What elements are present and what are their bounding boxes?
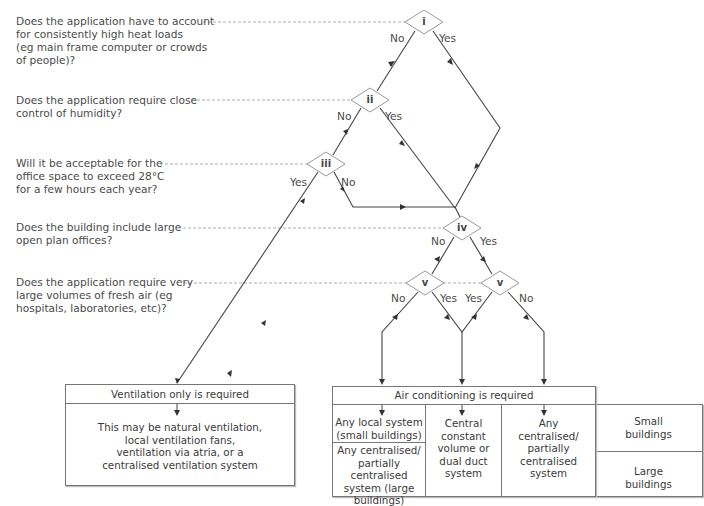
- question-iv: Does the building include large open pla…: [16, 221, 181, 247]
- air-conditioning-header: Air conditioning is required: [333, 387, 595, 405]
- ventilation-body-line: This may be natural ventilation,: [66, 421, 294, 434]
- ac-text-line: Central: [426, 417, 501, 430]
- branch-v-left-no: No: [391, 292, 405, 304]
- branch-v-right-yes: Yes: [465, 292, 482, 304]
- ventilation-box: Ventilation only is required This may be…: [65, 384, 295, 486]
- question-line: Does the application have to account: [16, 15, 214, 28]
- ac-local-system-small: Any local system (small buildings): [333, 416, 425, 441]
- question-line: office space to exceed 28°C: [16, 170, 164, 183]
- ac-text-line: system: [426, 467, 501, 480]
- ac-text-line: constant: [426, 430, 501, 443]
- air-conditioning-box: Air conditioning is required Any local s…: [332, 386, 596, 497]
- branch-v-right-no: No: [519, 292, 533, 304]
- ac-text-line: buildings): [331, 494, 427, 506]
- ac-text-line: partially: [502, 442, 595, 455]
- question-line: Does the application require very: [16, 276, 193, 289]
- question-line: hospitals, laboratories, etc)?: [16, 302, 193, 315]
- branch-i-no: No: [390, 32, 404, 44]
- question-line: open plan offices?: [16, 234, 181, 247]
- ac-text-line: Any local system: [333, 416, 425, 429]
- branch-iii-no: No: [341, 176, 355, 188]
- ac-text-line: Any centralised/: [331, 444, 427, 457]
- branch-i-yes: Yes: [439, 32, 456, 44]
- decision-iv-label: iv: [447, 222, 477, 234]
- ac-text-line: system: [502, 467, 595, 480]
- question-line: for a few hours each year?: [16, 183, 164, 196]
- legend-small-buildings: Small buildings: [595, 405, 702, 452]
- legend-line: buildings: [595, 428, 702, 441]
- branch-iv-yes: Yes: [480, 235, 497, 247]
- ac-central-constant-volume: Central constant volume or dual duct sys…: [426, 417, 501, 480]
- building-size-legend: Small buildings Large buildings: [594, 404, 703, 497]
- question-line: (eg main frame computer or crowds: [16, 41, 214, 54]
- decision-ii-label: ii: [355, 94, 385, 106]
- question-ii: Does the application require close contr…: [16, 94, 197, 120]
- question-iii: Will it be acceptable for the office spa…: [16, 157, 164, 196]
- question-line: for consistently high heat loads: [16, 28, 214, 41]
- question-line: large volumes of fresh air (eg: [16, 289, 193, 302]
- decision-v-right-label: v: [485, 277, 515, 289]
- ac-text-line: centralised: [502, 455, 595, 468]
- ac-centralised-large: Any centralised/ partially centralised s…: [331, 444, 427, 506]
- legend-line: buildings: [595, 478, 702, 491]
- branch-v-left-yes: Yes: [440, 292, 457, 304]
- question-line: Does the building include large: [16, 221, 181, 234]
- branch-ii-no: No: [337, 110, 351, 122]
- decision-iii-label: iii: [311, 158, 341, 170]
- question-line: Will it be acceptable for the: [16, 157, 164, 170]
- question-v: Does the application require very large …: [16, 276, 193, 315]
- legend-small-text: Small buildings: [595, 415, 702, 440]
- question-line: of people)?: [16, 54, 214, 67]
- legend-line: Small: [595, 415, 702, 428]
- row-divider: [333, 442, 425, 443]
- decision-v-left-label: v: [410, 277, 440, 289]
- ventilation-body: This may be natural ventilation, local v…: [66, 421, 294, 471]
- branch-ii-yes: Yes: [385, 110, 402, 122]
- ac-any-centralised: Any centralised/ partially centralised s…: [502, 417, 595, 480]
- ventilation-body-line: centralised ventilation system: [66, 459, 294, 472]
- ac-text-line: partially centralised: [331, 457, 427, 482]
- ac-text-line: (small buildings): [333, 429, 425, 442]
- decision-i-label: i: [409, 16, 439, 28]
- ventilation-header: Ventilation only is required: [66, 385, 294, 404]
- question-line: control of humidity?: [16, 107, 197, 120]
- ac-text-line: centralised/: [502, 430, 595, 443]
- ventilation-body-line: local ventilation fans,: [66, 434, 294, 447]
- question-line: Does the application require close: [16, 94, 197, 107]
- air-conditioning-title: Air conditioning is required: [333, 389, 595, 402]
- ac-text-line: volume or: [426, 442, 501, 455]
- legend-large-buildings: Large buildings: [595, 465, 702, 490]
- branch-iii-yes: Yes: [290, 176, 307, 188]
- legend-line: Large: [595, 465, 702, 478]
- ventilation-title: Ventilation only is required: [66, 388, 294, 401]
- ac-text-line: Any: [502, 417, 595, 430]
- branch-iv-no: No: [431, 235, 445, 247]
- ventilation-body-line: ventilation via atria, or a: [66, 446, 294, 459]
- question-i: Does the application have to account for…: [16, 15, 214, 67]
- ac-text-line: system (large: [331, 482, 427, 495]
- ac-text-line: dual duct: [426, 455, 501, 468]
